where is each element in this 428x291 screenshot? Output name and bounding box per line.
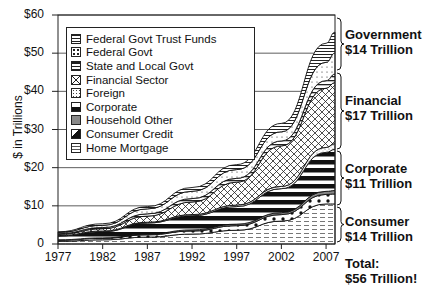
legend-swatch-icon	[71, 61, 81, 71]
x-tick-label: 1982	[83, 250, 123, 264]
legend-label: State and Local Govt	[86, 60, 193, 72]
legend-swatch-icon	[71, 75, 81, 85]
legend-label: Foreign	[86, 87, 125, 99]
legend-swatch-icon	[71, 88, 81, 98]
group-label-consumer: Consumer$14 Trillion	[345, 214, 413, 244]
legend-label: Financial Sector	[86, 74, 168, 86]
y-tick-label: $40	[0, 83, 44, 97]
y-tick-label: $60	[0, 7, 44, 21]
brace	[337, 18, 344, 70]
x-tick-label: 1977	[38, 250, 78, 264]
legend-item: Consumer Credit	[67, 127, 254, 141]
y-tick-label: $10	[0, 198, 44, 212]
x-tick-label: 1987	[127, 250, 167, 264]
total-label: Total:$56 Trillion!	[345, 256, 417, 286]
legend-item: Financial Sector	[67, 73, 254, 87]
legend-item: State and Local Govt	[67, 59, 254, 73]
group-label-government: Government$14 Trillion	[345, 27, 422, 57]
legend-item: Federal Govt Trust Funds	[67, 32, 254, 46]
legend-item: Household Other	[67, 114, 254, 128]
legend-item: Foreign	[67, 86, 254, 100]
legend-label: Federal Govt	[86, 46, 152, 58]
legend-swatch-icon	[71, 47, 81, 57]
x-tick-label: 2007	[306, 250, 346, 264]
legend-swatch-icon	[71, 34, 81, 44]
brace	[337, 207, 344, 242]
legend-swatch-icon	[71, 102, 81, 112]
legend: Federal Govt Trust FundsFederal GovtStat…	[66, 27, 255, 160]
y-tick-label: $50	[0, 45, 44, 59]
legend-swatch-icon	[71, 115, 81, 125]
group-braces	[337, 18, 344, 242]
x-tick-label: 2002	[261, 250, 301, 264]
legend-swatch-icon	[71, 129, 81, 139]
legend-item: Federal Govt	[67, 46, 254, 60]
legend-item: Corporate	[67, 100, 254, 114]
brace	[337, 151, 344, 205]
legend-label: Consumer Credit	[86, 128, 173, 140]
legend-label: Home Mortgage	[86, 142, 168, 154]
legend-label: Household Other	[86, 114, 173, 126]
x-tick-label: 1997	[217, 250, 257, 264]
legend-label: Corporate	[86, 101, 137, 113]
y-tick-label: $20	[0, 160, 44, 174]
legend-swatch-icon	[71, 143, 81, 153]
y-tick-label: 0	[0, 236, 44, 250]
x-tick-label: 1992	[172, 250, 212, 264]
legend-label: Federal Govt Trust Funds	[86, 33, 216, 45]
y-tick-label: $30	[0, 122, 44, 136]
legend-item: Home Mortgage	[67, 141, 254, 155]
brace	[337, 73, 344, 149]
group-label-corporate: Corporate$11 Trillion	[345, 161, 412, 191]
group-label-financial: Financial$17 Trillion	[345, 93, 413, 123]
